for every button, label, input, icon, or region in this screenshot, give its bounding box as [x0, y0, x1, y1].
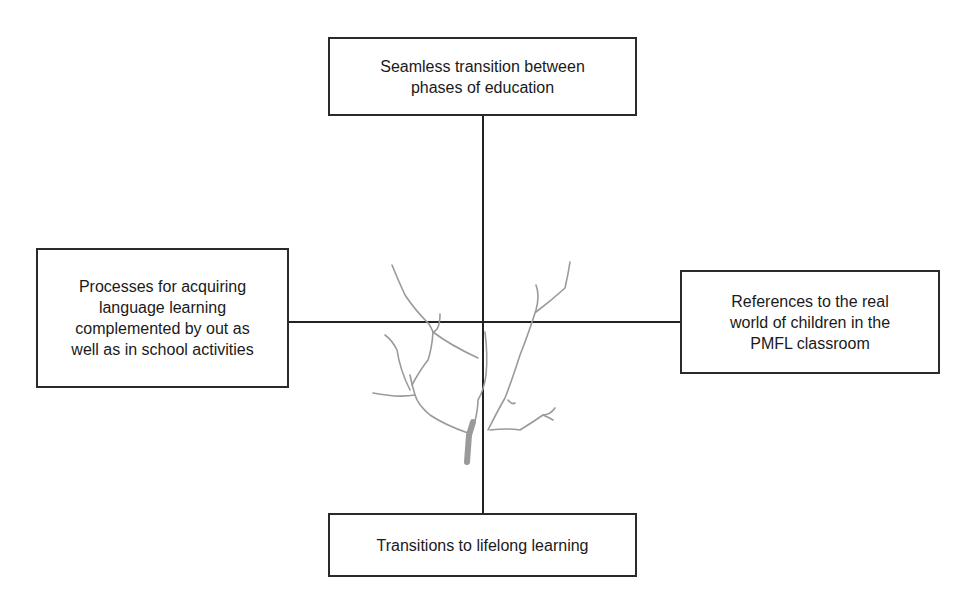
bottom-box-text: Transitions to lifelong learning — [377, 535, 589, 556]
right-box-text: References to the real world of children… — [730, 291, 890, 354]
top-box-text: Seamless transition between phases of ed… — [380, 56, 585, 98]
tree-icon — [340, 250, 600, 470]
left-box-text: Processes for acquiring language learnin… — [71, 276, 253, 360]
bottom-box: Transitions to lifelong learning — [328, 513, 637, 577]
right-box: References to the real world of children… — [680, 270, 940, 374]
left-box: Processes for acquiring language learnin… — [36, 248, 289, 388]
top-box: Seamless transition between phases of ed… — [328, 37, 637, 116]
